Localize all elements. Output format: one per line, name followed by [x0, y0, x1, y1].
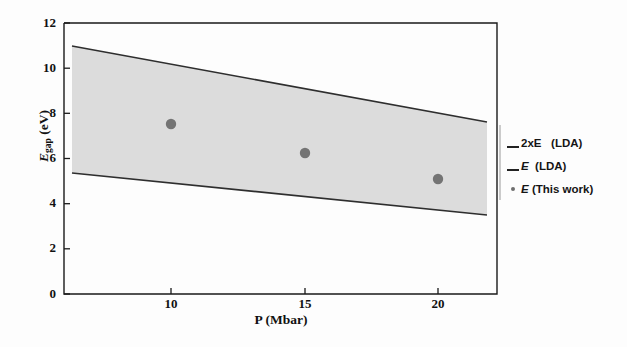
legend-item-label: E (This work) — [521, 183, 593, 195]
legend-symbol: E — [521, 160, 529, 172]
legend-line-key-icon — [505, 142, 521, 144]
y-axis-unit: (eV) — [36, 110, 51, 138]
data-point — [300, 148, 310, 158]
figure-container: 12 10 8 6 4 2 0 10 15 20 Egap (eV) P (Mb… — [0, 0, 627, 347]
y-axis-subscript: gap — [43, 138, 53, 153]
data-point — [166, 119, 176, 129]
x-axis-title: P (Mbar) — [64, 312, 498, 328]
legend-symbol: 2xE — [521, 137, 541, 149]
y-tick-label-12: 12 — [30, 15, 56, 31]
y-tick-label-10: 10 — [30, 60, 56, 76]
y-tick-label-0: 0 — [30, 286, 56, 302]
y-axis-symbol: E — [36, 153, 51, 162]
legend-dot-key-icon — [505, 187, 521, 191]
y-axis-ticks — [64, 23, 70, 294]
chart-legend: 2xE (LDA) E (LDA) E (This work) — [505, 131, 625, 200]
legend-item-E-lda[interactable]: E (LDA) — [505, 154, 625, 177]
y-axis-title: Egap (eV) — [36, 76, 52, 196]
legend-qualifier: (LDA) — [535, 160, 566, 172]
legend-item-label: E (LDA) — [521, 160, 566, 172]
legend-line-key-icon — [505, 165, 521, 167]
data-point — [433, 174, 443, 184]
y-tick-label-4: 4 — [30, 195, 56, 211]
legend-item-label: 2xE (LDA) — [521, 137, 582, 149]
x-tick-label-10: 10 — [154, 296, 188, 312]
legend-symbol: E — [521, 183, 529, 195]
legend-item-E-this-work[interactable]: E (This work) — [505, 177, 625, 200]
legend-qualifier: (This work) — [532, 183, 593, 195]
x-tick-label-20: 20 — [421, 296, 455, 312]
y-tick-label-2: 2 — [30, 240, 56, 256]
legend-qualifier: (LDA) — [551, 137, 582, 149]
legend-item-2xE-lda[interactable]: 2xE (LDA) — [505, 131, 625, 154]
lda-band-shaded-region — [72, 46, 487, 215]
x-tick-label-15: 15 — [288, 296, 322, 312]
x-axis-ticks — [171, 288, 438, 294]
